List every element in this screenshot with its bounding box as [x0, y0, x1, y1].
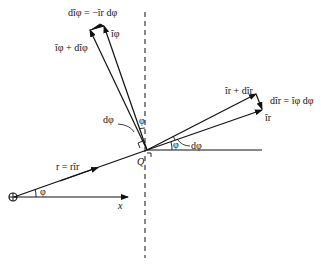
label-dphi-right: dφ: [191, 140, 202, 151]
ir-vector: [147, 110, 262, 150]
label-ir: îr: [264, 112, 272, 123]
polar-unit-vector-diagram: dîφ = −îr dφ îφ îφ + dîφ îr + dîr…: [0, 0, 321, 267]
label-dphi-upper: dφ: [103, 114, 114, 125]
label-phi-origin: φ: [40, 186, 46, 197]
label-iphi: îφ: [110, 28, 120, 39]
iphi-plus-diphi-vector: [90, 30, 147, 150]
label-ir-plus: îr + dîr: [224, 85, 254, 96]
label-r-vector: r = rîr: [56, 161, 80, 172]
dir-vector: [256, 94, 262, 109]
label-d-ir: dîr = îφ dφ: [270, 95, 314, 106]
label-point-Q: Q: [137, 156, 145, 167]
label-d-iphi: dîφ = −îr dφ: [68, 7, 117, 18]
label-iphi-plus: îφ + dîφ: [54, 42, 88, 53]
iphi-vector: [104, 26, 147, 150]
label-phi-upper: φ: [139, 115, 145, 126]
phi-arc-right: [171, 142, 172, 150]
phi-arc-origin: [35, 189, 36, 197]
label-phi-right: φ: [173, 139, 179, 150]
right-angle-marker: [138, 141, 143, 148]
label-x-axis: x: [117, 200, 123, 211]
